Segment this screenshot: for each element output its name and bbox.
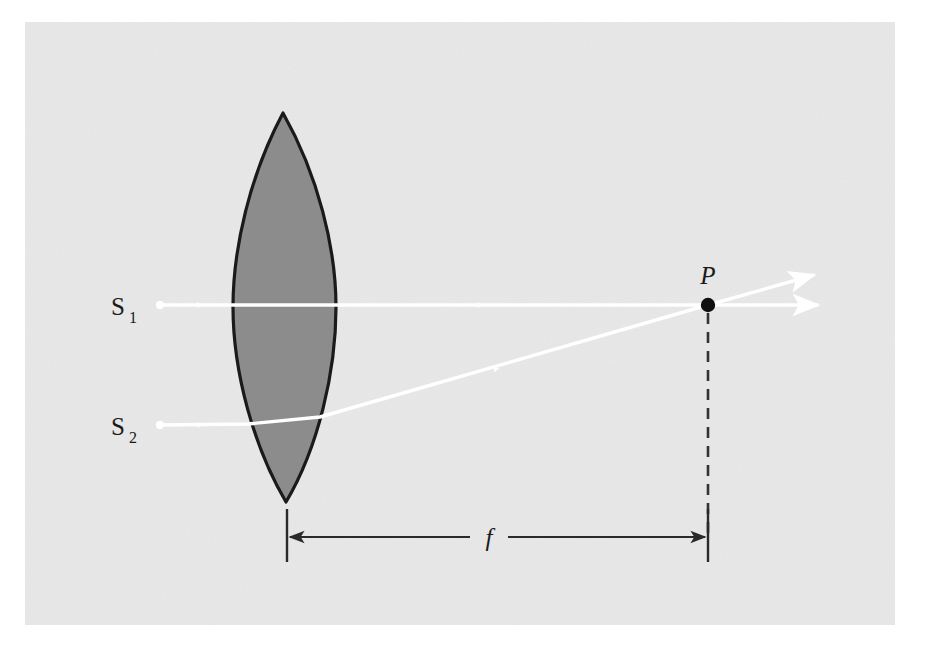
focal-point-marker <box>701 298 715 312</box>
figure-root: S 1 S 2 P f <box>0 0 928 662</box>
figure-panel-background <box>25 22 895 625</box>
label-source-2-subscript: 2 <box>129 429 137 446</box>
label-source-1-subscript: 1 <box>129 309 137 326</box>
label-source-2: S <box>111 413 125 440</box>
label-source-1: S <box>111 293 125 320</box>
lens-ray-diagram-svg: S 1 S 2 P f <box>0 0 928 662</box>
label-focal-point-p: P <box>699 262 715 289</box>
